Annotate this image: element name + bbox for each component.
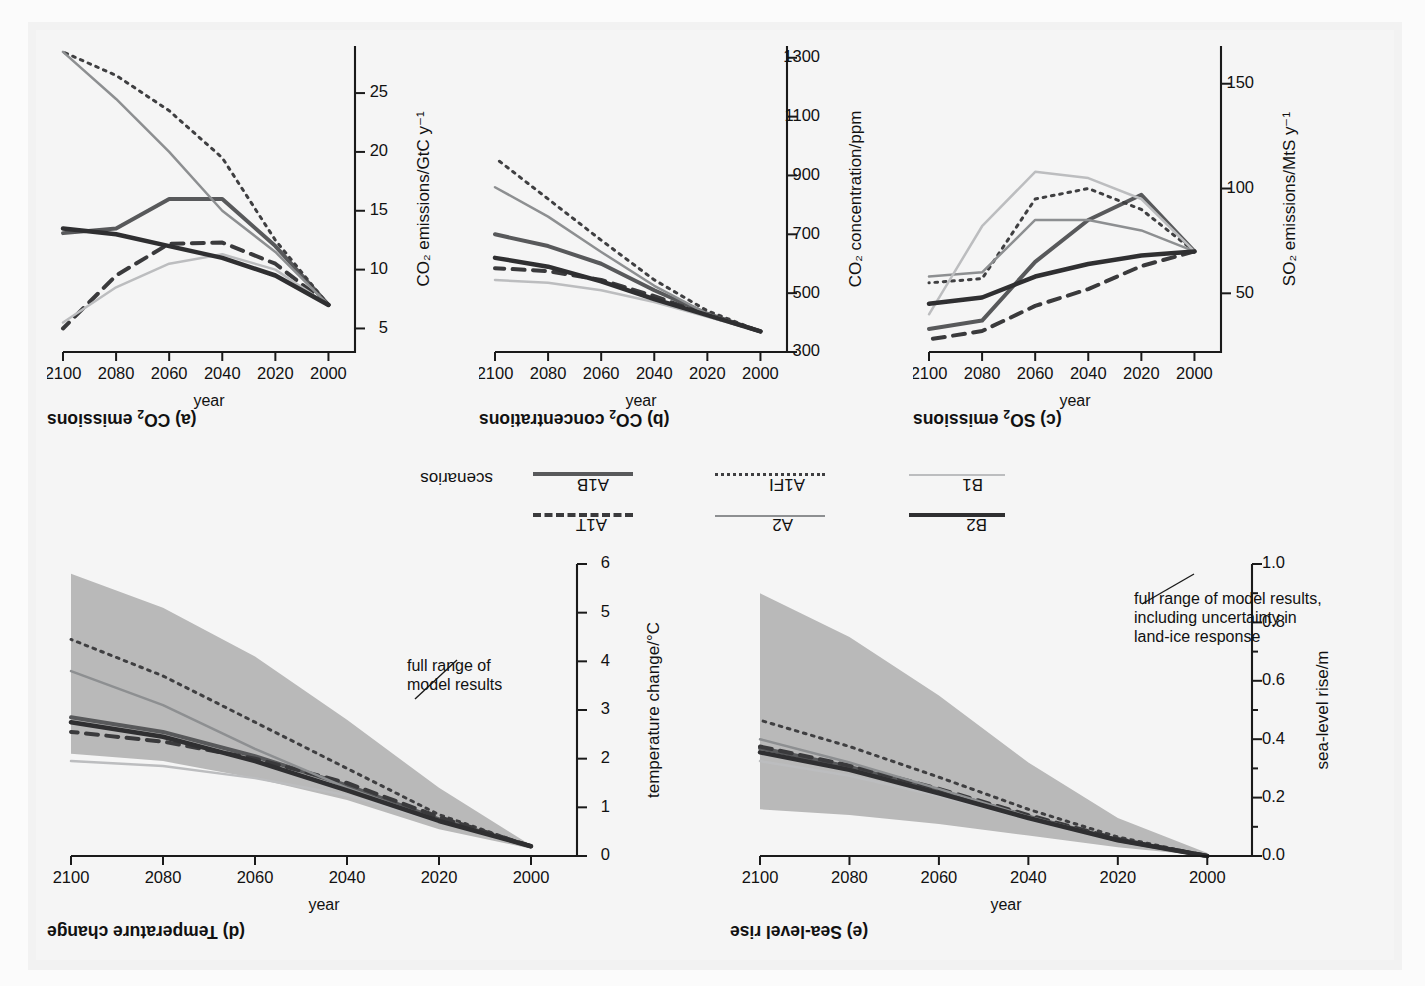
- x-tick-label: 2040: [204, 364, 241, 382]
- x-tick-label: 2060: [151, 364, 188, 382]
- series-line-b2: [929, 251, 1194, 303]
- panel-a-plot: 200020202040206020802100year510152025CO₂…: [47, 30, 467, 430]
- x-tick-label: 2100: [742, 868, 779, 886]
- annotation-text: full range ofmodel results: [407, 657, 502, 693]
- x-tick-label: 2020: [689, 364, 726, 382]
- y-tick-label: 150: [1226, 73, 1254, 91]
- x-tick-label: 2000: [1176, 364, 1213, 382]
- panel-d-plot: 200020202040206020802100year0123456tempe…: [47, 542, 707, 942]
- panel-e-plot: 200020202040206020802100year0.00.20.40.6…: [730, 542, 1370, 942]
- x-tick-label: 2100: [479, 364, 513, 382]
- y-tick-label: 0.4: [1262, 729, 1285, 747]
- x-axis-label: year: [990, 896, 1022, 913]
- legend-swatch-b1: [909, 474, 1005, 476]
- y-tick-label: 6: [601, 553, 610, 571]
- y-tick-label: 100: [1226, 178, 1254, 196]
- y-tick-label: 2: [601, 748, 610, 766]
- panel-e-title: (e) Sea-level rise: [730, 921, 868, 942]
- x-tick-label: 2080: [530, 364, 567, 382]
- y-tick-label: 50: [1236, 283, 1254, 301]
- axis-spines: [495, 46, 787, 352]
- y-tick-label: 10: [370, 259, 388, 277]
- y-tick-label: 4: [601, 651, 610, 669]
- y-tick-label: 20: [370, 141, 388, 159]
- panel-d-title: (d) Temperature change: [47, 921, 245, 942]
- y-tick-label: 1: [601, 797, 610, 815]
- y-tick-label: 500: [792, 283, 820, 301]
- x-axis-label: year: [308, 896, 340, 913]
- x-tick-label: 2040: [1010, 868, 1047, 886]
- uncertainty-band: [71, 574, 531, 849]
- series-line-a2: [63, 52, 328, 305]
- y-tick-label: 900: [792, 165, 820, 183]
- panel-a-title: (a) CO2 emissions: [47, 407, 197, 431]
- panel-c-title: (c) SO2 emissions: [913, 407, 1062, 431]
- y-axis-label: sea-level rise/m: [1313, 650, 1332, 769]
- y-tick-label: 5: [601, 602, 610, 620]
- panel-b-plot: 200020202040206020802100year300500700900…: [479, 30, 899, 430]
- y-tick-label: 25: [370, 82, 388, 100]
- legend-label-a1t: A1T: [576, 514, 607, 534]
- y-tick-label: 0: [601, 845, 610, 863]
- legend-group-label: scenarios: [420, 468, 493, 488]
- x-tick-label: 2060: [921, 868, 958, 886]
- panel-b-co2-concentrations: (b) CO2 concentrations 20002020204020602…: [479, 30, 899, 430]
- x-tick-label: 2100: [53, 868, 90, 886]
- svg-text:full range of: full range of: [407, 657, 491, 674]
- annotation-text: full range of model results,including un…: [1134, 590, 1322, 645]
- x-tick-label: 2080: [145, 868, 182, 886]
- svg-text:including uncertainty in: including uncertainty in: [1134, 609, 1297, 626]
- y-tick-label: 5: [379, 318, 388, 336]
- svg-text:land-ice response: land-ice response: [1134, 628, 1260, 645]
- series-line-a1t: [929, 251, 1194, 339]
- panel-a-co2-emissions: (a) CO2 emissions 2000202020402060208021…: [47, 30, 467, 430]
- figure-page: (e) Sea-level rise 200020202040206020802…: [0, 0, 1425, 986]
- panel-c-plot: 200020202040206020802100year50100150SO₂ …: [913, 30, 1333, 430]
- y-tick-label: 700: [792, 224, 820, 242]
- x-tick-label: 2020: [257, 364, 294, 382]
- y-tick-label: 15: [370, 200, 388, 218]
- x-axis-label: year: [193, 392, 225, 409]
- scenarios-legend: scenarios A1B A1FI A1T A2 B1 B2: [395, 448, 1027, 534]
- panel-c-so2-emissions: (c) SO2 emissions 2000202020402060208021…: [913, 30, 1333, 430]
- y-axis-label: CO₂ emissions/GtC y⁻¹: [414, 111, 433, 287]
- axis-spines: [929, 46, 1221, 352]
- series-line-a1t: [63, 243, 328, 329]
- x-tick-label: 2060: [1017, 364, 1054, 382]
- x-tick-label: 2040: [636, 364, 673, 382]
- svg-text:model results: model results: [407, 676, 502, 693]
- y-axis-label: CO₂ concentration/ppm: [846, 111, 865, 288]
- svg-text:full range of model results,: full range of model results,: [1134, 590, 1322, 607]
- x-tick-label: 2020: [1123, 364, 1160, 382]
- y-tick-label: 1.0: [1262, 553, 1285, 571]
- legend-label-a1fi: A1FI: [769, 474, 805, 494]
- y-axis-label: temperature change/°C: [644, 622, 663, 798]
- legend-label-a2: A2: [772, 514, 793, 534]
- x-tick-label: 2040: [329, 868, 366, 886]
- y-axis-label: SO₂ emissions/MtS y⁻¹: [1280, 112, 1299, 287]
- y-tick-label: 3: [601, 699, 610, 717]
- x-tick-label: 2040: [1070, 364, 1107, 382]
- y-tick-label: 1300: [783, 47, 820, 65]
- legend-label-a1b: A1B: [577, 474, 609, 494]
- panel-b-title: (b) CO2 concentrations: [479, 407, 669, 431]
- y-tick-label: 0.0: [1262, 845, 1285, 863]
- legend-swatch-b2: [909, 513, 1005, 517]
- x-tick-label: 2080: [964, 364, 1001, 382]
- panel-e-sea-level-rise: (e) Sea-level rise 200020202040206020802…: [730, 542, 1370, 942]
- series-line-b1: [495, 280, 760, 331]
- x-tick-label: 2000: [310, 364, 347, 382]
- legend-label-b1: B1: [962, 474, 983, 494]
- x-tick-label: 2020: [421, 868, 458, 886]
- y-tick-label: 1100: [785, 106, 820, 124]
- y-tick-label: 300: [792, 341, 820, 359]
- legend-swatch-a2: [715, 515, 825, 517]
- legend-label-b2: B2: [966, 514, 987, 534]
- x-tick-label: 2080: [831, 868, 868, 886]
- x-tick-label: 2060: [237, 868, 274, 886]
- x-tick-label: 2020: [1099, 868, 1136, 886]
- y-tick-label: 0.2: [1262, 787, 1285, 805]
- panel-d-temperature-change: (d) Temperature change 20002020204020602…: [47, 542, 707, 942]
- x-tick-label: 2080: [98, 364, 135, 382]
- y-tick-label: 0.6: [1262, 670, 1285, 688]
